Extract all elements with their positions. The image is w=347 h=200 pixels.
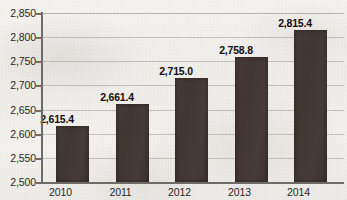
bar-value-2014: 2,815.4 <box>264 17 326 29</box>
x-axis-label-2012: 2012 <box>150 186 209 198</box>
y-axis-tick-label: 2,750 <box>2 56 36 66</box>
bar-2011 <box>116 104 149 182</box>
gridline <box>42 13 344 14</box>
bar-value-2013: 2,758.8 <box>205 44 267 56</box>
y-axis-tick-label: 2,850 <box>2 8 36 18</box>
x-axis-label-2010: 2010 <box>31 186 90 198</box>
x-axis-label-2014: 2014 <box>269 186 328 198</box>
y-axis-labels: 2,850 2,800 2,750 2,700 2,650 2,600 2,55… <box>0 0 36 200</box>
bar-value-2012: 2,715.0 <box>145 65 207 77</box>
bar-2014 <box>294 30 327 182</box>
bar-chart: 2,850 2,800 2,750 2,700 2,650 2,600 2,55… <box>0 0 347 200</box>
y-axis-tick-label: 2,700 <box>2 80 36 90</box>
bar-2010 <box>56 126 89 182</box>
y-axis-tick-label: 2,550 <box>2 153 36 163</box>
y-axis-line <box>41 12 43 183</box>
x-axis-label-2013: 2013 <box>210 186 269 198</box>
x-axis-label-2011: 2011 <box>91 186 150 198</box>
x-axis-line <box>41 182 344 184</box>
bar-2013 <box>235 57 268 182</box>
y-axis-tick-label: 2,800 <box>2 32 36 42</box>
bar-value-2010: 2,615.4 <box>26 113 88 125</box>
bar-2012 <box>175 78 208 182</box>
y-axis-tick-label: 2,600 <box>2 129 36 139</box>
bar-value-2011: 2,661.4 <box>86 91 148 103</box>
